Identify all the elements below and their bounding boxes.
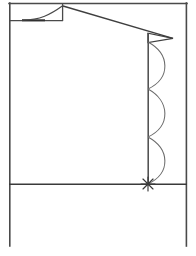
- line-drawing: [0, 0, 196, 256]
- rising-curve: [22, 6, 63, 21]
- mast-arc-group: [148, 42, 165, 184]
- mast-arc-3: [148, 137, 165, 184]
- drawing-canvas: [0, 0, 196, 256]
- mast-arc-1: [148, 42, 165, 89]
- burst-center-dot: [146, 182, 149, 185]
- mast-arc-2: [148, 89, 165, 137]
- asterisk-burst: [141, 177, 155, 191]
- outer-frame: [9, 3, 187, 246]
- jib-diagonal: [63, 6, 173, 38]
